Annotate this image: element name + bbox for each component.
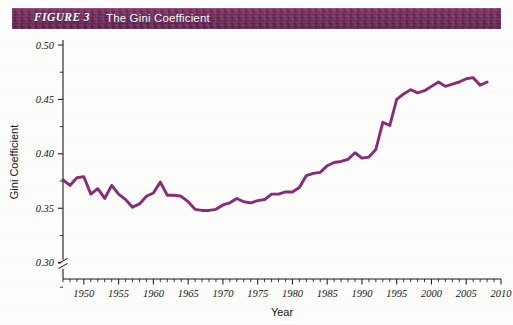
x-tick-label: 1960 (143, 288, 165, 299)
x-tick-label: 1980 (282, 288, 304, 299)
y-axis-title: Gini Coefficient (8, 125, 20, 199)
x-tick-label: 1990 (351, 288, 373, 299)
x-axis-title: Year (271, 306, 294, 318)
figure-root: FIGURE 3 The Gini Coefficient 0.300.350.… (0, 0, 513, 325)
y-axis-ticks (58, 45, 63, 287)
x-tick-label: 1955 (108, 288, 129, 299)
gini-coefficient-line-chart: 0.300.350.400.450.50 Gini Coefficient 19… (0, 30, 513, 325)
x-tick-label: 1965 (178, 288, 199, 299)
x-tick-label: 1970 (212, 288, 234, 299)
x-tick-label: 1995 (386, 288, 407, 299)
x-axis-group: 1950195519601965197019751980198519901995… (63, 279, 512, 318)
y-tick-label: 0.50 (36, 40, 55, 51)
x-axis-tick-labels: 1950195519601965197019751980198519901995… (73, 288, 512, 299)
y-axis-group: 0.300.350.400.450.50 Gini Coefficient (8, 40, 68, 288)
y-tick-label: 0.30 (36, 257, 55, 268)
x-tick-label: 1985 (317, 288, 338, 299)
y-tick-label: 0.40 (36, 148, 55, 159)
y-axis-tick-labels: 0.300.350.400.450.50 (36, 40, 55, 269)
x-tick-label: 1950 (73, 288, 95, 299)
figure-title: The Gini Coefficient (106, 12, 210, 24)
y-axis-break-icon (59, 258, 68, 268)
y-tick-label: 0.45 (36, 94, 54, 105)
x-tick-label: 2010 (491, 288, 513, 299)
x-tick-label: 1975 (247, 288, 268, 299)
y-tick-label: 0.35 (36, 203, 54, 214)
figure-number-label: FIGURE 3 (34, 11, 90, 23)
chart-container: 0.300.350.400.450.50 Gini Coefficient 19… (0, 30, 513, 325)
figure-header-bar: FIGURE 3 The Gini Coefficient (12, 8, 501, 29)
gini-series-line (63, 78, 487, 211)
x-tick-label: 2005 (456, 288, 477, 299)
x-tick-label: 2000 (421, 288, 443, 299)
